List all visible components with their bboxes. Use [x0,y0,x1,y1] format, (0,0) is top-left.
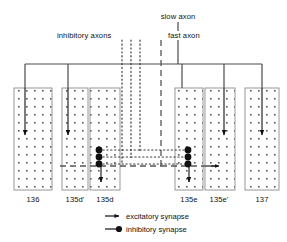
muscle-label-137: 137 [256,195,269,204]
muscle-rect-135dp [62,88,88,190]
muscle-rect-135d [90,88,120,190]
legend-label-inhibitory: inhibitory synapse [126,225,187,234]
muscle-label-135e: 135e [180,195,197,204]
inhibitory-synapses-135e [185,147,192,168]
inhibitory-synapses-135d [96,147,103,168]
inhibitory-bouton [185,161,192,168]
muscle-label-136: 136 [27,195,40,204]
slow-axon-bus [25,64,262,88]
muscle-label-135d: 135d [96,195,113,204]
muscle-rect-135ep [205,88,235,190]
fast-axon-label: fast axon [168,31,200,40]
inhibitory-bouton [96,161,103,168]
legend-symbols [105,216,122,232]
diagram-svg [0,0,287,242]
figure-canvas: slow axon inhibitory axons fast axon 136… [0,0,287,242]
legend-label-excitatory: excitatory synapse [126,212,189,221]
slow-axon-label: slow axon [161,12,196,21]
inhibitory-bouton [185,147,192,154]
muscle-bundles [14,88,279,190]
inhibitory-bouton [96,147,103,154]
legend-inhibitory-circle [116,226,122,232]
inhibitory-axons-label: inhibitory axons [57,31,111,40]
inhibitory-axons [122,40,140,164]
muscle-label-135dp: 135d' [66,195,85,204]
inhibitory-bouton [185,154,192,161]
muscle-label-135ep: 135e' [210,195,229,204]
muscle-rect-136 [14,88,52,190]
inhibitory-bouton [96,154,103,161]
